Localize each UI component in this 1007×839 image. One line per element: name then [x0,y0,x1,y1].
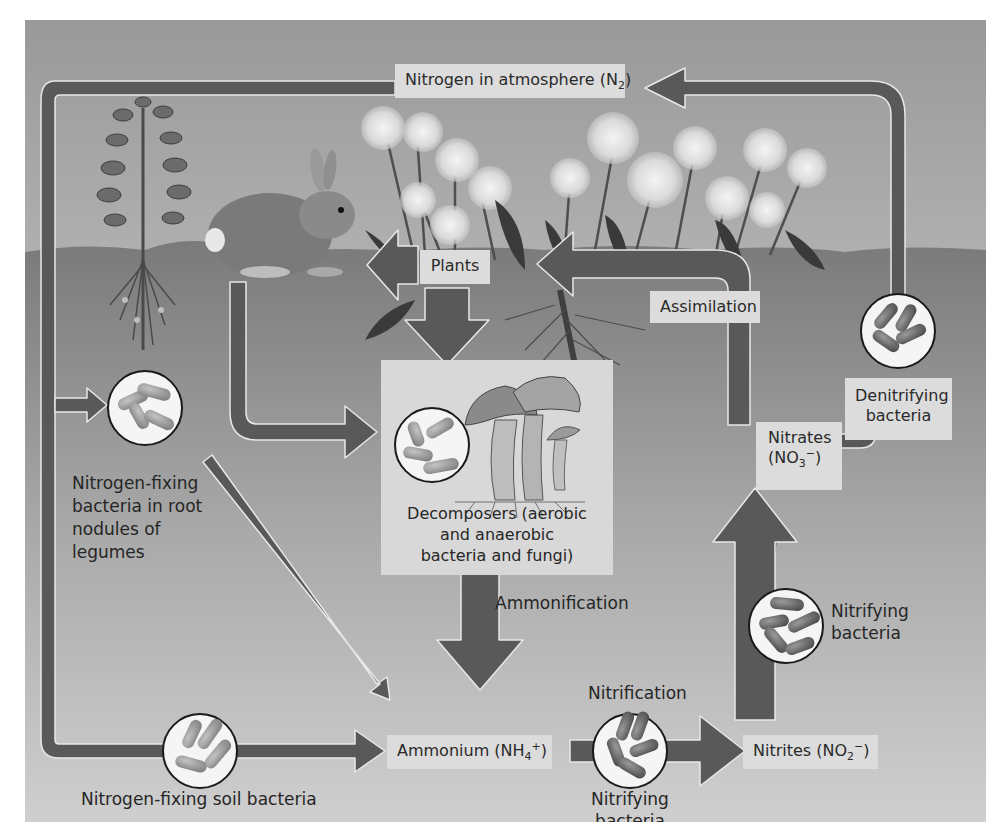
node-denitrifying-bacteria: Denitrifying bacteria [845,378,952,440]
label-root-nodule-bacteria: Nitrogen-fixing bacteria in root nodules… [72,472,202,564]
node-ammonium: Ammonium (NH4+) [387,735,552,769]
bacteria-circle-soil-fixing [163,714,237,788]
bacteria-circle-root-nodule [108,371,182,445]
label-nitrifying-bacteria-bottom: Nitrifying bacteria [585,788,675,822]
node-plants: Plants [420,250,490,284]
bacteria-circle-nitrifying-right [749,589,823,663]
label-nitrifying-bacteria-right: Nitrifying bacteria [831,600,909,644]
node-nitrates: Nitrates (NO3−) [756,422,842,490]
node-nitrites: Nitrites (NO2−) [743,735,878,769]
process-nitrification: Nitrification [588,682,687,704]
process-ammonification: Ammonification [495,592,629,614]
node-atmosphere: Nitrogen in atmosphere (N2) [395,64,625,98]
bacteria-circle-denitrifying [861,294,935,368]
nitrogen-cycle-diagram: Nitrogen in atmosphere (N2) Plants Assim… [25,20,986,822]
node-decomposers: Decomposers (aerobic and anaerobic bacte… [381,503,613,566]
diagram-graphics [25,20,986,822]
node-assimilation: Assimilation [650,291,760,323]
label-soil-bacteria: Nitrogen-fixing soil bacteria [81,788,317,810]
bacteria-circle-decomposer [395,408,469,482]
